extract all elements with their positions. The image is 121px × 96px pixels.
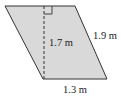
side-label: 1.9 m <box>93 30 117 41</box>
height-label: 1.7 m <box>49 37 73 48</box>
base-label: 1.3 m <box>63 84 87 95</box>
parallelogram-diagram: 1.7 m 1.9 m 1.3 m <box>0 0 121 96</box>
